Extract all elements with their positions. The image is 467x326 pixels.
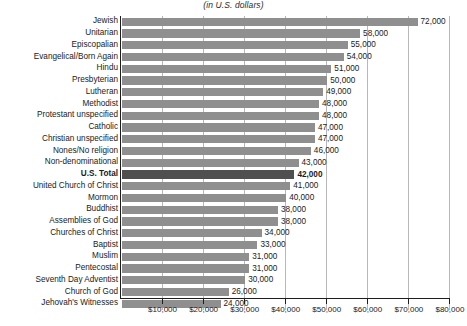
category-label: Pentecostal [75,263,118,273]
bar [122,76,327,84]
bar-row: Presbyterian50,000 [0,75,467,87]
bar [122,53,344,61]
value-label: 47,000 [318,134,343,144]
bar [122,159,299,167]
value-label: 31,000 [252,264,277,274]
x-tick [162,299,163,304]
bar-row: Hindu51,000 [0,63,467,75]
value-label: 47,000 [318,123,343,133]
x-tick-label: $50,000 [312,305,341,314]
category-label: Nones/No religion [53,146,118,156]
bar-row: Churches of Christ34,000 [0,228,467,240]
x-tick-label: $80,000 [435,305,464,314]
value-label: 72,000 [421,17,446,27]
value-label: 33,000 [260,240,285,250]
bar-row: Unitarian58,000 [0,28,467,40]
value-label: 38,000 [281,205,306,215]
bar [122,112,319,120]
bar [122,264,249,272]
bar [122,41,348,49]
bar-row: Jewish72,000 [0,16,467,28]
bar-row: Christian unspecified47,000 [0,134,467,146]
bar [122,147,311,155]
value-label: 26,000 [232,287,257,297]
bar-row: Assemblies of God38,000 [0,216,467,228]
x-tick-label: $70,000 [394,305,423,314]
bar [122,135,315,143]
bar [122,288,229,296]
x-tick-label: $40,000 [271,305,300,314]
value-label: 55,000 [351,40,376,50]
value-label: 30,000 [248,275,273,285]
chart-subtitle: (in U.S. dollars) [0,0,467,10]
bar-row: Protestant unspecified48,000 [0,110,467,122]
x-tick-label: $30,000 [230,305,259,314]
category-label: Presbyterian [72,75,118,85]
value-label: 38,000 [281,217,306,227]
bar-row: Evangelical/Born Again54,000 [0,51,467,63]
bar [122,65,331,73]
bar-row: Methodist48,000 [0,98,467,110]
value-label: 49,000 [326,87,351,97]
x-tick [203,299,204,304]
value-label: 48,000 [322,111,347,121]
value-label: 43,000 [302,158,327,168]
value-label: 50,000 [330,76,355,86]
bar-row: Muslim31,000 [0,251,467,263]
category-label: Catholic [88,122,118,132]
category-label: Unitarian [85,28,118,38]
category-label: Methodist [83,99,119,109]
bar-row: Episcopalian55,000 [0,40,467,52]
bar-row: Seventh Day Adventist30,000 [0,275,467,287]
bar-row: Lutheran49,000 [0,87,467,99]
category-label: Jewish [93,16,118,26]
value-label: 54,000 [347,52,372,62]
value-label: 41,000 [293,181,318,191]
value-label: 34,000 [265,228,290,238]
value-label: 31,000 [252,252,277,262]
x-tick-label: $60,000 [353,305,382,314]
bar [122,88,323,96]
category-label: Lutheran [86,87,118,97]
x-tick [408,299,409,304]
category-label: Hindu [97,63,118,73]
value-label: 48,000 [322,99,347,109]
bar [122,182,290,190]
bar [122,229,262,237]
bar [122,123,315,131]
x-tick [285,299,286,304]
bar [122,253,249,261]
x-tick [326,299,327,304]
bar-row: Non-denominational43,000 [0,157,467,169]
category-label: Evangelical/Born Again [34,52,118,62]
value-label: 42,000 [297,170,322,180]
bar [122,276,245,284]
bar [122,29,360,37]
value-label: 40,000 [289,193,314,203]
x-tick [244,299,245,304]
bar-row: Nones/No religion46,000 [0,145,467,157]
bar [122,194,286,202]
bar [122,206,278,214]
bar [122,217,278,225]
category-label: Non-denominational [45,157,118,167]
bar [122,100,319,108]
bar-row: Mormon40,000 [0,192,467,204]
bar [122,170,294,178]
bar [122,18,418,26]
category-label: Church of God [65,287,118,297]
category-label: Jehovah's Witnesses [41,298,118,308]
category-label: U.S. Total [81,169,118,179]
bar [122,241,257,249]
category-label: Assemblies of God [49,216,118,226]
x-tick [449,299,450,304]
category-label: Baptist [93,240,118,250]
bar-row: Pentecostal31,000 [0,263,467,275]
category-label: Seventh Day Adventist [36,275,118,285]
x-tick-label: $10,000 [148,305,177,314]
category-label: Protestant unspecified [37,110,118,120]
bar-row: Baptist33,000 [0,239,467,251]
category-label: Mormon [88,193,118,203]
bar-row: United Church of Christ41,000 [0,181,467,193]
value-label: 58,000 [363,29,388,39]
